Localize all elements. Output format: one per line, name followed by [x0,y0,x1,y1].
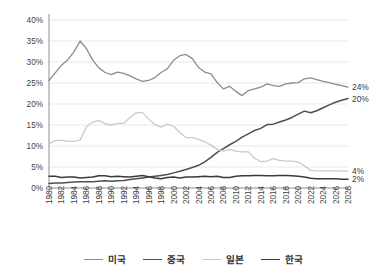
line-chart: 0%5%10%15%20%25%30%35%40% 19801982198419… [0,0,387,272]
series-line-미국 [49,41,348,96]
x-tick-label: 2000 [170,185,179,204]
x-tick-label: 1980 [45,185,54,204]
legend-line-swatch [202,259,221,260]
legend-item-일본[interactable]: 일본 [202,252,244,266]
series-line-한국 [49,175,348,179]
gridlines [49,20,348,188]
legend-label: 미국 [108,252,126,266]
legend-item-중국[interactable]: 중국 [143,252,185,266]
legend-item-미국[interactable]: 미국 [84,252,126,266]
end-label-중국: 20% [352,94,369,104]
axis-lines [49,14,348,188]
x-tick-label: 2010 [232,185,241,204]
x-tick-label: 2008 [219,185,228,204]
x-tick-label: 2026 [332,185,341,204]
x-tick-label: 1984 [70,185,79,204]
x-tick-label: 2014 [257,185,266,204]
legend-line-swatch [261,259,280,260]
x-tick-label: 1998 [157,185,166,204]
x-axis-ticks: 1980198219841986198819901992199419961998… [45,185,353,204]
legend-line-swatch [84,259,103,260]
x-tick-label: 2024 [319,185,328,204]
legend-line-swatch [143,259,162,260]
chart-legend: 미국중국일본한국 [0,252,387,266]
x-tick-label: 1994 [132,185,141,204]
legend-label: 중국 [167,252,185,266]
end-label-미국: 24% [352,82,369,92]
x-tick-label: 2022 [307,185,316,204]
x-tick-label: 2002 [182,185,191,204]
x-tick-label: 1988 [95,185,104,204]
x-tick-label: 2016 [269,185,278,204]
x-tick-label: 1986 [82,185,91,204]
x-tick-label: 2004 [195,185,204,204]
series-end-labels: 24%20%4%2% [352,82,369,184]
legend-label: 한국 [285,252,303,266]
series-line-중국 [49,99,348,184]
legend-label: 일본 [226,252,244,266]
x-tick-label: 1996 [145,185,154,204]
x-tick-label: 2028 [344,185,353,204]
x-tick-label: 2020 [294,185,303,204]
x-tick-label: 2018 [282,185,291,204]
y-tick-label: 20% [27,100,43,109]
end-label-한국: 2% [352,174,365,184]
chart-plot-area: 0%5%10%15%20%25%30%35%40% 19801982198419… [0,0,387,272]
y-tick-label: 5% [31,163,43,172]
legend-item-한국[interactable]: 한국 [261,252,303,266]
y-tick-label: 30% [27,58,43,67]
y-tick-label: 0% [31,184,43,193]
y-tick-label: 25% [27,79,43,88]
y-axis-ticks: 0%5%10%15%20%25%30%35%40% [27,16,43,193]
x-tick-label: 2012 [244,185,253,204]
series-line-일본 [49,112,348,171]
x-tick-label: 1982 [57,185,66,204]
x-tick-label: 2006 [207,185,216,204]
y-tick-label: 40% [27,16,43,25]
y-tick-label: 15% [27,121,43,130]
x-tick-label: 1992 [120,185,129,204]
y-tick-label: 35% [27,37,43,46]
x-tick-label: 1990 [107,185,116,204]
y-tick-label: 10% [27,142,43,151]
